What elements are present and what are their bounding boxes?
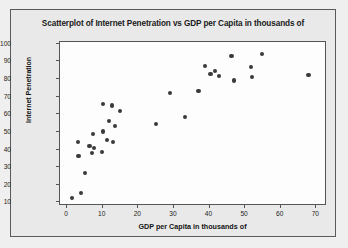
x-tick-label: 10	[98, 210, 105, 217]
y-tick-label: 10	[0, 198, 11, 205]
data-point	[91, 132, 95, 136]
scatter-points-layer	[60, 42, 325, 204]
y-tick-label: 30	[0, 163, 11, 170]
x-tick-label: 70	[312, 210, 319, 217]
data-point	[260, 52, 264, 56]
y-tick-label: 100	[0, 39, 11, 46]
data-point	[229, 54, 233, 58]
data-point	[70, 196, 74, 200]
y-tick-label: 20	[0, 180, 11, 187]
x-tick-mark	[280, 205, 281, 208]
data-point	[101, 129, 105, 133]
y-tick-label: 80	[0, 75, 11, 82]
data-point	[105, 138, 109, 142]
data-point	[79, 191, 83, 195]
data-point	[213, 69, 217, 73]
y-axis-title: Internet Penetration	[25, 57, 32, 123]
x-tick-mark	[209, 205, 210, 208]
data-point	[76, 140, 80, 144]
data-point	[90, 151, 94, 155]
data-point	[196, 89, 200, 93]
plot-area	[59, 41, 326, 205]
data-point	[217, 74, 221, 78]
data-point	[100, 150, 104, 154]
y-tick-label: 40	[0, 145, 11, 152]
data-point	[203, 64, 207, 68]
x-tick-mark	[315, 205, 316, 208]
y-tick-label: 60	[0, 110, 11, 117]
data-point	[183, 115, 187, 119]
data-point	[250, 75, 254, 79]
data-point	[92, 146, 96, 150]
data-point	[154, 122, 158, 126]
x-tick-mark	[102, 205, 103, 208]
data-point	[107, 119, 111, 123]
data-point	[113, 124, 117, 128]
data-point	[249, 65, 253, 69]
data-point	[168, 91, 172, 95]
data-point	[232, 78, 236, 82]
data-point	[83, 171, 87, 175]
figure-frame: Scatterplot of Internet Penetration vs G…	[10, 9, 336, 237]
x-tick-label: 20	[134, 210, 141, 217]
x-tick-label: 30	[169, 210, 176, 217]
x-tick-mark	[137, 205, 138, 208]
x-tick-mark	[66, 205, 67, 208]
x-tick-mark	[173, 205, 174, 208]
data-point	[87, 144, 91, 148]
data-point	[101, 102, 105, 106]
data-point	[110, 103, 114, 107]
data-point	[208, 72, 212, 76]
data-point	[111, 140, 115, 144]
x-axis-title: GDP per Capita in thousands of	[59, 222, 326, 231]
chart-title: Scatterplot of Internet Penetration vs G…	[11, 19, 335, 28]
x-tick-label: 60	[276, 210, 283, 217]
y-tick-label: 90	[0, 57, 11, 64]
x-tick-label: 0	[64, 210, 68, 217]
x-tick-mark	[244, 205, 245, 208]
data-point	[118, 109, 122, 113]
data-point	[306, 73, 310, 77]
x-tick-label: 40	[205, 210, 212, 217]
x-tick-label: 50	[240, 210, 247, 217]
data-point	[76, 154, 80, 158]
y-tick-label: 50	[0, 127, 11, 134]
y-tick-label: 70	[0, 92, 11, 99]
